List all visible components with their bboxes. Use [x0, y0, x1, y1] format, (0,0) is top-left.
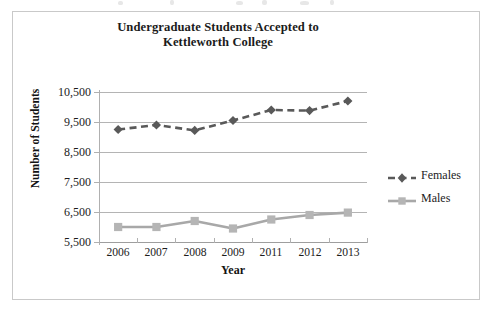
scan-artifacts [0, 0, 493, 11]
series-males [114, 209, 352, 233]
males-data-point [267, 215, 275, 223]
females-data-point [152, 120, 161, 129]
males-data-point [344, 209, 352, 217]
females-data-point [343, 96, 352, 105]
series-females [114, 96, 353, 135]
chart-frame: Undergraduate Students Accepted to Kettl… [12, 11, 480, 300]
males-data-point [229, 224, 237, 232]
females-line [118, 101, 348, 130]
males-data-point [152, 223, 160, 231]
females-data-point [190, 126, 199, 135]
females-markers [114, 96, 353, 135]
legend-item-males[interactable]: Males [387, 187, 479, 210]
males-data-point [114, 223, 122, 231]
legend-label-females: Females [421, 168, 461, 183]
series-layer [13, 12, 481, 301]
chart-legend: Females Males [387, 164, 479, 210]
diamond-marker-icon [387, 170, 417, 182]
females-data-point [267, 105, 276, 114]
legend-item-females[interactable]: Females [387, 164, 479, 187]
legend-label-males: Males [421, 191, 450, 206]
males-data-point [305, 211, 313, 219]
females-data-point [305, 106, 314, 115]
square-marker-icon [387, 193, 417, 205]
males-markers [114, 209, 352, 233]
females-data-point [228, 116, 237, 125]
females-data-point [114, 125, 123, 134]
males-data-point [191, 217, 199, 225]
